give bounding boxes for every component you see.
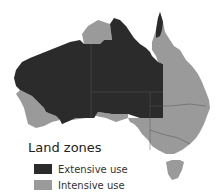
swatch-intensive — [34, 180, 52, 190]
legend-label-extensive: Extensive use — [58, 164, 128, 175]
tasmania — [166, 160, 184, 180]
legend-item-extensive: Extensive use — [34, 162, 128, 176]
legend-item-intensive: Intensive use — [34, 178, 128, 192]
swatch-extensive — [34, 164, 52, 174]
legend: Land zones Extensive use Intensive use — [28, 140, 128, 194]
legend-label-intensive: Intensive use — [58, 180, 125, 191]
legend-title: Land zones — [28, 140, 128, 156]
